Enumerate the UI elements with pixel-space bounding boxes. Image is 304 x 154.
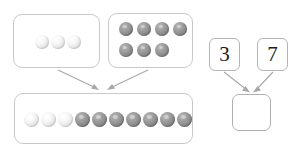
sum-answer-box[interactable] — [232, 94, 271, 131]
counter-highlight — [113, 115, 118, 119]
counter-highlight — [123, 46, 128, 50]
arrow-part-one-to-whole — [58, 70, 99, 90]
arrow-part-two-to-whole — [107, 70, 148, 90]
counter-highlight — [55, 38, 60, 42]
counter-highlight — [130, 115, 135, 119]
counter-dark[interactable] — [75, 112, 90, 127]
counter-highlight — [96, 115, 101, 119]
counter-dark[interactable] — [92, 112, 107, 127]
addend-one-value: 3 — [219, 44, 230, 65]
addend-two-value: 7 — [267, 44, 278, 65]
counter-highlight — [62, 115, 67, 119]
counter-dark[interactable] — [137, 43, 151, 57]
counter-light[interactable] — [41, 112, 56, 127]
counter-dark[interactable] — [119, 22, 133, 36]
arrow-addend-two-to-sum — [253, 72, 273, 93]
whole-group-box[interactable] — [14, 93, 193, 144]
worksheet-canvas: 3 7 — [0, 0, 304, 154]
counter-dark[interactable] — [143, 112, 158, 127]
counter-dark[interactable] — [160, 112, 175, 127]
counter-dark[interactable] — [173, 22, 187, 36]
part-two-group-box[interactable] — [108, 13, 193, 68]
counter-light[interactable] — [51, 35, 65, 49]
counter-dark[interactable] — [137, 22, 151, 36]
counter-highlight — [45, 115, 50, 119]
sum-answer-value — [233, 95, 270, 130]
arrow-addend-one-to-sum — [224, 72, 250, 93]
part-one-group-box[interactable] — [13, 14, 100, 68]
counter-light[interactable] — [24, 112, 39, 127]
counter-highlight — [79, 115, 84, 119]
counter-highlight — [164, 115, 169, 119]
counter-highlight — [177, 25, 182, 29]
counter-dark[interactable] — [155, 43, 169, 57]
counter-dark[interactable] — [109, 112, 124, 127]
counter-highlight — [159, 25, 164, 29]
counter-highlight — [39, 38, 44, 42]
counter-dark[interactable] — [126, 112, 141, 127]
counter-highlight — [123, 25, 128, 29]
counter-highlight — [159, 46, 164, 50]
addend-two-box[interactable]: 7 — [257, 38, 288, 71]
counter-highlight — [28, 115, 33, 119]
counter-highlight — [141, 46, 146, 50]
counter-highlight — [71, 38, 76, 42]
counter-light[interactable] — [67, 35, 81, 49]
counter-dark[interactable] — [155, 22, 169, 36]
counter-highlight — [147, 115, 152, 119]
counter-light[interactable] — [35, 35, 49, 49]
counter-light[interactable] — [58, 112, 73, 127]
counter-dark[interactable] — [177, 112, 192, 127]
addend-one-box[interactable]: 3 — [209, 38, 240, 71]
counter-highlight — [141, 25, 146, 29]
counter-highlight — [181, 115, 186, 119]
counter-dark[interactable] — [119, 43, 133, 57]
